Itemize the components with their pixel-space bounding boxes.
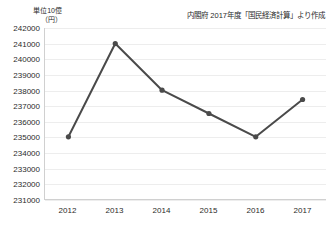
- data-point-marker: [66, 134, 71, 139]
- y-axis-tick-label: 235000: [0, 133, 40, 142]
- x-axis-tick-label: 2015: [200, 206, 218, 215]
- series-layer: [45, 28, 326, 199]
- x-axis-tick-label: 2014: [153, 206, 171, 215]
- y-axis-tick-label: 232000: [0, 180, 40, 189]
- data-point-marker: [253, 134, 258, 139]
- y-axis-tick-label: 237000: [0, 102, 40, 111]
- x-axis-tick-label: 2013: [106, 206, 124, 215]
- data-point-marker: [300, 97, 305, 102]
- source-annotation: 内閣府 2017年度「国民経済計算」より作成: [187, 9, 325, 20]
- y-axis-tick-label: 236000: [0, 117, 40, 126]
- x-axis-tick-label: 2016: [247, 206, 265, 215]
- series-markers: [66, 41, 305, 139]
- y-axis-tick-label: 234000: [0, 149, 40, 158]
- gridline: [45, 200, 326, 201]
- y-axis-tick-label: 239000: [0, 70, 40, 79]
- bottom-clipped-row: [0, 230, 331, 237]
- x-axis-tick-label: 2017: [294, 206, 312, 215]
- data-point-marker: [113, 41, 118, 46]
- y-axis-unit-label: 単位10億 （円）: [4, 6, 62, 24]
- y-axis-tick-label: 238000: [0, 86, 40, 95]
- series-line-gdp: [68, 44, 302, 137]
- line-chart: 単位10億 （円） 内閣府 2017年度「国民経済計算」より作成 2420002…: [0, 0, 331, 237]
- data-point-marker: [206, 111, 211, 116]
- y-axis-tick-label: 233000: [0, 164, 40, 173]
- data-point-marker: [159, 88, 164, 93]
- plot-area: [44, 28, 326, 200]
- y-axis-tick-label: 231000: [0, 196, 40, 205]
- y-axis-tick-label: 241000: [0, 39, 40, 48]
- y-axis-tick-label: 242000: [0, 24, 40, 33]
- x-axis-tick-label: 2012: [59, 206, 77, 215]
- y-axis-tick-label: 240000: [0, 55, 40, 64]
